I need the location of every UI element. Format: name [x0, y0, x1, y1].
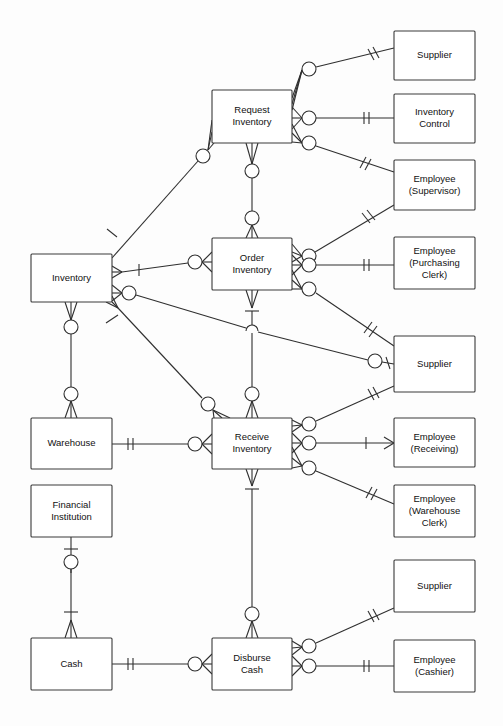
- entity-employee-purchasing-clerk[interactable]: Employee (Purchasing Clerk): [394, 237, 475, 289]
- cardinality-zero-circle: [245, 164, 259, 178]
- connector-receive-disburse: [245, 469, 259, 638]
- entity-label-line1: Receive: [235, 431, 269, 442]
- er-diagram-canvas: Inventory Warehouse Financial Institutio…: [0, 0, 503, 726]
- entity-label-line3: Clerk): [422, 517, 447, 528]
- entity-employee-cashier[interactable]: Employee (Cashier): [394, 640, 475, 692]
- cardinality-one-tick: [373, 609, 379, 620]
- entity-label-line2: Control: [419, 118, 450, 129]
- entity-cash[interactable]: Cash: [31, 638, 112, 690]
- connector-order-purchasingclerk: [292, 255, 394, 275]
- entity-label-line1: Employee: [413, 173, 455, 184]
- entity-label-line2: Cash: [241, 664, 263, 675]
- cardinality-one-tick: [364, 322, 372, 333]
- cardinality-zero-circle: [64, 555, 78, 569]
- cardinality-zero-circle: [188, 255, 202, 269]
- cardinality-zero-circle: [245, 211, 259, 225]
- entity-label-line1: Employee: [413, 654, 455, 665]
- entity-inventory[interactable]: Inventory: [31, 254, 112, 302]
- entity-supplier-2[interactable]: Supplier: [394, 336, 475, 392]
- cardinality-one-tick: [373, 387, 379, 398]
- entity-label-line2: (Purchasing: [409, 257, 460, 268]
- connector-order-supplier: [292, 270, 394, 346]
- entity-label-line1: Financial: [52, 499, 90, 510]
- connector-request-inventorycontrol: [292, 107, 394, 129]
- entity-label-line1: Disburse: [233, 652, 271, 663]
- cardinality-zero-circle: [302, 136, 316, 150]
- connector-order-receive: [245, 290, 259, 418]
- cardinality-one-tick: [106, 315, 118, 323]
- cardinality-zero-circle: [245, 607, 259, 621]
- entity-label-line2: Inventory: [232, 443, 271, 454]
- entity-label-line3: Clerk): [422, 269, 447, 280]
- cardinality-zero-circle: [302, 417, 316, 431]
- cardinality-zero-circle: [368, 354, 382, 368]
- cardinality-zero-circle: [64, 387, 78, 401]
- connector-receive-warehouse: [112, 434, 212, 454]
- cardinality-zero-circle: [302, 282, 316, 296]
- connector-inventory-warehouse: [64, 302, 78, 418]
- connector-request-supplier: [292, 47, 394, 110]
- cardinality-zero-circle: [64, 320, 78, 334]
- cardinality-zero-circle: [302, 111, 316, 125]
- cardinality-zero-circle: [302, 659, 316, 673]
- connector-disburse-supplier: [292, 608, 394, 655]
- entity-label-line1: Employee: [413, 493, 455, 504]
- entity-layer: Inventory Warehouse Financial Institutio…: [31, 31, 475, 692]
- connector-request-order: [245, 143, 259, 238]
- entity-receive-inventory[interactable]: Receive Inventory: [212, 418, 292, 469]
- cardinality-one-tick: [368, 611, 374, 622]
- connector-receive-employeereceiving: [292, 433, 394, 453]
- connector-inventory-supplier: [112, 285, 394, 369]
- connector-cash-disburse: [112, 654, 212, 674]
- entity-label: Inventory: [52, 272, 91, 283]
- cardinality-zero-circle: [245, 387, 259, 401]
- cardinality-zero-circle: [201, 397, 215, 411]
- entity-employee-supervisor[interactable]: Employee (Supervisor): [394, 160, 475, 210]
- entity-label: Cash: [60, 658, 82, 669]
- cardinality-zero-circle: [188, 437, 202, 451]
- connector-financial-cash: [64, 537, 78, 638]
- cardinality-zero-circle: [302, 639, 316, 653]
- entity-label-line1: Employee: [413, 431, 455, 442]
- entity-inventory-control[interactable]: Inventory Control: [394, 94, 475, 143]
- connector-receive-employeewarehouse: [292, 447, 394, 504]
- entity-label: Supplier: [417, 580, 452, 591]
- er-diagram-svg: Inventory Warehouse Financial Institutio…: [0, 0, 503, 726]
- cardinality-one-tick: [107, 229, 117, 237]
- line-hop: [246, 325, 258, 331]
- cardinality-zero-circle: [302, 436, 316, 450]
- connector-disburse-cashier: [292, 656, 394, 676]
- entity-label: Supplier: [417, 358, 452, 369]
- entity-label-line2: (Receiving): [410, 443, 458, 454]
- cardinality-one-tick: [368, 389, 374, 400]
- entity-supplier-1[interactable]: Supplier: [394, 31, 475, 80]
- entity-label: Supplier: [417, 49, 452, 60]
- connector-request-supervisor: [292, 124, 394, 172]
- entity-order-inventory[interactable]: Order Inventory: [212, 238, 292, 290]
- entity-label-line1: Request: [234, 104, 270, 115]
- connector-request-inventory: [107, 120, 214, 258]
- entity-label: Warehouse: [47, 437, 95, 448]
- connector-receive-supplier: [292, 386, 394, 432]
- connector-order-inventory: [112, 252, 212, 278]
- entity-label-line1: Employee: [413, 245, 455, 256]
- entity-label-line2: Inventory: [232, 264, 271, 275]
- entity-label-line2: Inventory: [232, 116, 271, 127]
- cardinality-zero-circle: [302, 62, 316, 76]
- entity-employee-warehouse-clerk[interactable]: Employee (Warehouse Clerk): [394, 485, 475, 537]
- entity-label-line1: Order: [240, 252, 264, 263]
- cardinality-zero-circle: [122, 286, 136, 300]
- cardinality-zero-circle: [302, 461, 316, 475]
- cardinality-zero-circle: [188, 657, 202, 671]
- entity-request-inventory[interactable]: Request Inventory: [212, 90, 292, 143]
- cardinality-zero-circle: [196, 149, 210, 163]
- entity-disburse-cash[interactable]: Disburse Cash: [212, 638, 292, 690]
- cardinality-one-tick: [369, 326, 377, 337]
- entity-warehouse[interactable]: Warehouse: [31, 418, 112, 469]
- entity-financial-institution[interactable]: Financial Institution: [31, 485, 112, 537]
- entity-label-line2: (Warehouse: [409, 505, 460, 516]
- entity-employee-receiving[interactable]: Employee (Receiving): [394, 418, 475, 467]
- entity-supplier-3[interactable]: Supplier: [394, 560, 475, 612]
- cardinality-zero-circle: [302, 258, 316, 272]
- entity-label-line2: (Cashier): [415, 666, 454, 677]
